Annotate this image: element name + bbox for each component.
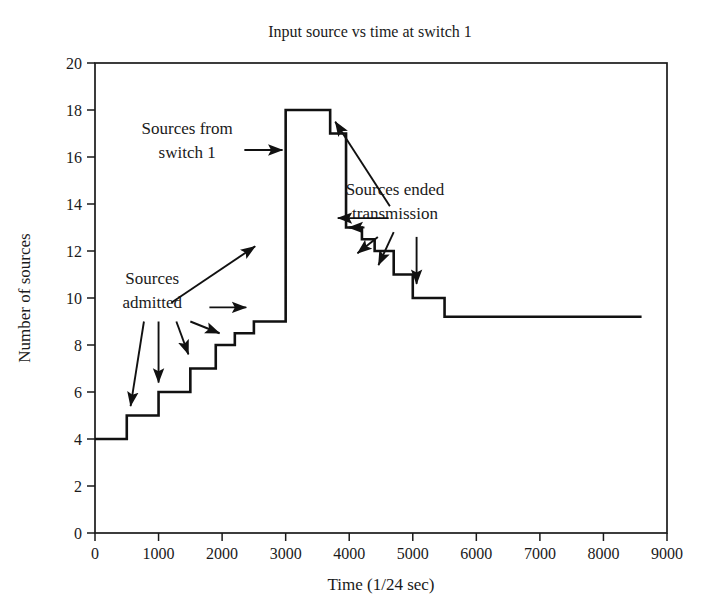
annotation-arrow <box>176 322 188 355</box>
annotation-arrow <box>131 322 144 407</box>
y-tick-label: 20 <box>66 55 82 72</box>
x-tick-label: 3000 <box>270 545 302 562</box>
y-tick-label: 18 <box>66 102 82 119</box>
annotation-sources-ended-transmission: Sources endedtransmission <box>335 122 445 284</box>
x-tick-label: 8000 <box>587 545 619 562</box>
y-tick-label: 10 <box>66 290 82 307</box>
annotation-arrow <box>378 232 393 265</box>
y-tick-label: 6 <box>74 384 82 401</box>
x-axis-ticks: 0100020003000400050006000700080009000 <box>91 533 683 562</box>
y-tick-label: 4 <box>74 431 82 448</box>
chart-figure: Input source vs time at switch 1 0246810… <box>0 0 720 613</box>
y-axis-ticks: 02468101214161820 <box>66 55 95 542</box>
y-tick-label: 14 <box>66 196 82 213</box>
x-tick-label: 0 <box>91 545 99 562</box>
x-tick-label: 2000 <box>206 545 238 562</box>
y-tick-label: 0 <box>74 525 82 542</box>
annotation-label: Sources ended <box>346 180 445 199</box>
y-tick-label: 12 <box>66 243 82 260</box>
annotation-sources-from-switch-1: Sources fromswitch 1 <box>142 119 283 162</box>
y-tick-label: 16 <box>66 149 82 166</box>
y-tick-label: 8 <box>74 337 82 354</box>
chart-title: Input source vs time at switch 1 <box>268 23 472 41</box>
annotation-label: Sources from <box>142 119 233 138</box>
x-tick-label: 7000 <box>524 545 556 562</box>
annotation-arrow <box>190 322 219 334</box>
annotation-label: admitted <box>122 293 182 312</box>
y-tick-label: 2 <box>74 478 82 495</box>
step-chart: Input source vs time at switch 1 0246810… <box>0 0 720 613</box>
annotation-sources-admitted: Sourcesadmitted <box>122 246 255 406</box>
x-tick-label: 5000 <box>397 545 429 562</box>
annotation-arrow <box>171 246 255 302</box>
x-tick-label: 1000 <box>143 545 175 562</box>
annotation-label: switch 1 <box>159 143 216 162</box>
x-axis-title: Time (1/24 sec) <box>327 575 434 594</box>
annotation-layer: Sources fromswitch 1SourcesadmittedSourc… <box>122 119 444 407</box>
x-tick-label: 4000 <box>333 545 365 562</box>
x-tick-label: 9000 <box>651 545 683 562</box>
y-axis-title: Number of sources <box>15 233 34 362</box>
annotation-label: Sources <box>125 269 179 288</box>
annotation-label: transmission <box>352 204 438 223</box>
x-tick-label: 6000 <box>460 545 492 562</box>
